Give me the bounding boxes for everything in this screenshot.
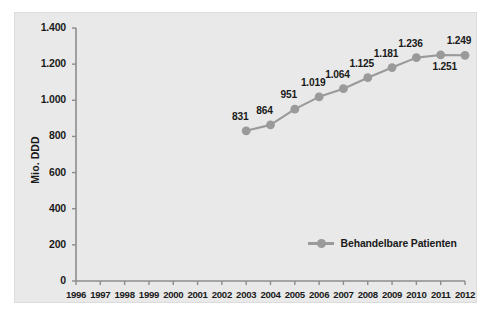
chart-panel: Mio. DDD 02004006008001.0001.2001.400 19… <box>14 12 477 303</box>
data-point-marker <box>461 51 470 60</box>
data-point-marker <box>436 51 445 60</box>
data-point-label: 864 <box>243 105 287 116</box>
y-tick-label: 800 <box>22 129 66 141</box>
data-point-marker <box>290 105 299 114</box>
data-point-label: 1.251 <box>423 61 467 72</box>
data-point-marker <box>266 120 275 129</box>
data-point-label: 1.064 <box>315 69 359 80</box>
data-point-label: 1.236 <box>388 38 432 49</box>
y-tick-label: 1.200 <box>22 57 66 69</box>
legend-marker-icon <box>308 242 334 245</box>
data-point-marker <box>363 73 372 82</box>
y-tick-label: 200 <box>22 238 66 250</box>
chart-legend: Behandelbare Patienten <box>308 238 457 249</box>
x-tick-label: 2012 <box>448 289 482 300</box>
x-axis <box>76 281 465 285</box>
y-tick-label: 0 <box>22 274 66 286</box>
y-tick-label: 600 <box>22 166 66 178</box>
data-point-label: 1.181 <box>364 48 408 59</box>
y-tick-label: 1.400 <box>22 21 66 33</box>
data-point-marker <box>412 53 421 62</box>
data-point-label: 1.249 <box>437 35 481 46</box>
data-point-marker <box>388 63 397 72</box>
data-point-marker <box>315 92 324 101</box>
data-point-marker <box>242 126 251 135</box>
y-tick-label: 1.000 <box>22 93 66 105</box>
legend-label: Behandelbare Patienten <box>341 238 457 249</box>
chart-figure: Mio. DDD 02004006008001.0001.2001.400 19… <box>0 0 491 316</box>
y-axis <box>72 28 76 281</box>
data-point-marker <box>339 84 348 93</box>
y-tick-label: 400 <box>22 202 66 214</box>
data-point-label: 1.125 <box>340 58 384 69</box>
data-point-label: 951 <box>267 89 311 100</box>
